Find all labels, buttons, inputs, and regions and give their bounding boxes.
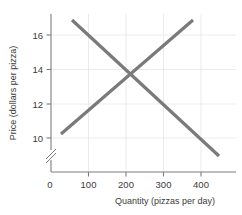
x-tick-label-200: 200 [118,179,134,190]
demand-curve [72,20,219,156]
supply-demand-chart: 16 14 12 10 0 100 200 300 400 Quantity (… [0,0,242,215]
x-tick-label-400: 400 [193,179,209,190]
y-tick-label-10: 10 [32,133,43,144]
supply-curve [61,20,193,134]
x-tick-label-300: 300 [156,179,172,190]
y-tick-label-14: 14 [32,64,43,75]
x-tick-label-100: 100 [81,179,97,190]
x-axis-title: Quantity (pizzas per day) [115,196,215,206]
vertical-gridlines [89,14,202,172]
y-tick-marks [47,35,52,138]
y-axis-title: Price (dollars per pizza) [8,46,18,141]
chart-figure: 16 14 12 10 0 100 200 300 400 Quantity (… [0,0,242,215]
y-tick-label-16: 16 [32,30,43,41]
y-tick-label-12: 12 [32,99,43,110]
origin-tick-label-0: 0 [47,179,52,190]
x-tick-marks [89,172,202,177]
